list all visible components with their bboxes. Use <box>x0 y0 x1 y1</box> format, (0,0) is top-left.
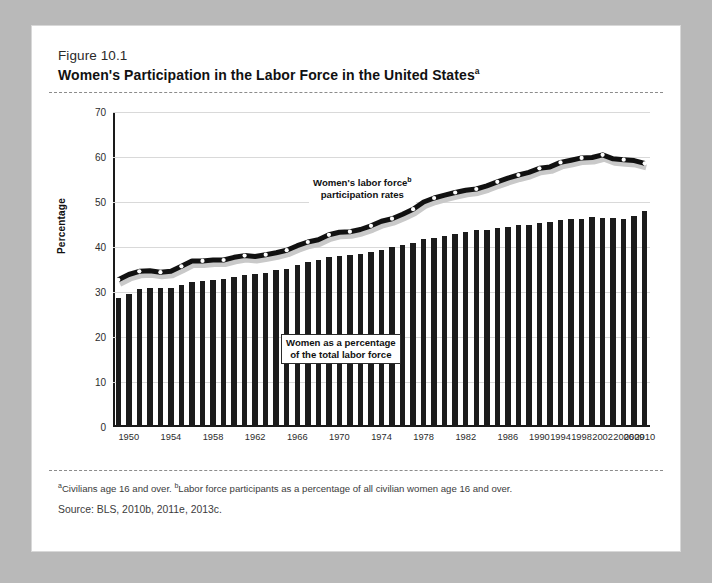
chart-area: Percentage 010203040506070 1950195419581… <box>58 104 658 464</box>
y-tick-label: 50 <box>95 197 106 208</box>
annotation-bar-text-2: of the total labor force <box>290 349 391 360</box>
y-tick-label: 30 <box>95 287 106 298</box>
line-marker <box>116 278 120 282</box>
line-marker <box>643 161 647 165</box>
page-background: Figure 10.1 Women's Participation in the… <box>0 0 712 583</box>
line-marker <box>158 270 162 274</box>
y-axis-label: Percentage <box>56 198 67 254</box>
y-tick-label: 20 <box>95 332 106 343</box>
y-tick-label: 10 <box>95 377 106 388</box>
annotation-line-superscript: b <box>407 176 411 183</box>
line-marker <box>306 240 310 244</box>
line-marker <box>495 180 499 184</box>
line-marker <box>390 217 394 221</box>
annotation-bar-text-1: Women as a percentage <box>286 337 396 348</box>
y-tick-label: 70 <box>95 107 106 118</box>
figure-number: Figure 10.1 <box>58 48 127 63</box>
line-marker <box>285 248 289 252</box>
x-tick-label: 1998 <box>571 432 592 442</box>
line-marker <box>453 190 457 194</box>
line-marker <box>327 233 331 237</box>
y-tick-label: 0 <box>100 422 106 433</box>
line-marker <box>348 230 352 234</box>
x-tick-label: 1954 <box>161 432 182 442</box>
figure-card: Figure 10.1 Women's Participation in the… <box>32 26 680 551</box>
line-marker <box>411 207 415 211</box>
line-marker <box>558 160 562 164</box>
line-marker <box>622 158 626 162</box>
line-series <box>113 112 650 427</box>
annotation-line-label: Women's labor forceb participation rates <box>309 174 416 203</box>
x-tick-label: 1982 <box>455 432 476 442</box>
x-tick-label: 1986 <box>498 432 519 442</box>
x-tick-label: 1950 <box>118 432 139 442</box>
figure-title-text: Women's Participation in the Labor Force… <box>58 67 475 83</box>
x-tick-label: 2010 <box>634 432 655 442</box>
line-marker <box>222 258 226 262</box>
divider-bottom <box>49 470 663 471</box>
x-tick-label: 2002 <box>592 432 613 442</box>
footnote-text-a: Civilians age 16 and over. <box>62 483 175 494</box>
line-marker <box>369 224 373 228</box>
x-tick-label: 1962 <box>245 432 266 442</box>
figure-footnote: aCivilians age 16 and over. bLabor force… <box>58 481 658 496</box>
y-tick-label: 60 <box>95 152 106 163</box>
line-marker <box>137 269 141 273</box>
line-marker <box>200 259 204 263</box>
line-marker <box>537 166 541 170</box>
plot-region: 010203040506070 195019541958196219661970… <box>113 112 650 427</box>
annotation-line-text-2: participation rates <box>321 189 404 200</box>
divider-top <box>49 92 663 93</box>
annotation-line-text-1: Women's labor force <box>313 177 407 188</box>
y-tick-label: 40 <box>95 242 106 253</box>
line-marker <box>601 153 605 157</box>
x-tick-label: 1970 <box>329 432 350 442</box>
line-marker <box>580 156 584 160</box>
line-marker <box>179 264 183 268</box>
x-tick-label: 1974 <box>371 432 392 442</box>
x-tick-label: 1990 <box>529 432 550 442</box>
figure-title: Women's Participation in the Labor Force… <box>58 66 480 83</box>
line-marker <box>516 173 520 177</box>
figure-title-superscript: a <box>475 66 480 76</box>
line-marker <box>432 196 436 200</box>
footnote-text-b: Labor force participants as a percentage… <box>178 483 512 494</box>
figure-source: Source: BLS, 2010b, 2011e, 2013c. <box>58 504 658 515</box>
annotation-bar-label: Women as a percentage of the total labor… <box>281 334 401 364</box>
line-marker <box>474 187 478 191</box>
x-tick-label: 1966 <box>287 432 308 442</box>
x-tick-label: 1978 <box>413 432 434 442</box>
line-marker <box>264 253 268 257</box>
line-marker <box>243 254 247 258</box>
x-tick-label: 1994 <box>550 432 571 442</box>
x-tick-label: 1958 <box>203 432 224 442</box>
